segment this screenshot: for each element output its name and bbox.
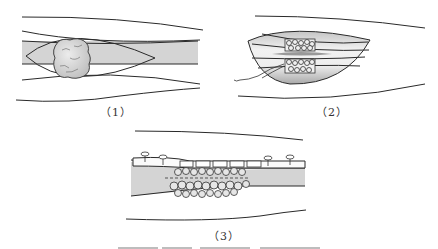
panel-2-caption: （2） (316, 103, 348, 119)
soft-tissue-line (22, 31, 200, 41)
panel-3 (126, 131, 306, 220)
figure-canvas (0, 0, 438, 249)
panel-2 (234, 16, 425, 98)
tumor-mass (54, 39, 91, 79)
bone-shaft (22, 41, 198, 64)
limb-outline-top (255, 16, 425, 28)
soft-tissue-line (22, 75, 200, 84)
graft-block-upper (285, 39, 315, 51)
figure-caption-cutoff (100, 244, 350, 249)
panel-3-caption: （3） (208, 227, 240, 243)
limb-outline-top (22, 17, 203, 30)
plate-segments (180, 161, 261, 167)
limb-outline-bottom (126, 210, 306, 220)
limb-outline-bottom (16, 88, 200, 101)
panel-1 (16, 17, 203, 101)
panel-1-caption: （1） (100, 103, 132, 119)
limb-outline-bottom (238, 84, 425, 98)
limb-outline-top (135, 131, 303, 140)
graft-block-lower (285, 59, 315, 73)
